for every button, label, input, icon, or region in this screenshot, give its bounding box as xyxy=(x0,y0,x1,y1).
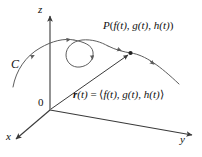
point-p-marker xyxy=(128,51,132,55)
vector-component-2: g(t) xyxy=(122,88,138,100)
axes-group xyxy=(16,16,192,139)
point-p-component-2: g(t) xyxy=(132,19,148,31)
curve-arrow-1 xyxy=(31,56,33,57)
space-curve xyxy=(13,39,179,87)
point-p-label: P(f(t), g(t), h(t)) xyxy=(103,20,173,31)
vector-equation-label: r(t) = ⟨f(t), g(t), h(t)⟩ xyxy=(73,89,164,100)
curve-segment-left xyxy=(13,39,74,87)
y-axis-label: y xyxy=(180,134,185,145)
point-p-close-paren: ) xyxy=(170,19,174,31)
curve-name-label: C xyxy=(11,58,19,70)
point-p-component-1: f(t) xyxy=(113,19,126,31)
curve-loop xyxy=(66,40,108,67)
origin-label: 0 xyxy=(38,97,44,108)
x-axis xyxy=(16,110,50,139)
point-p-name: P xyxy=(103,19,110,31)
vector-close-angle-bracket: ⟩ xyxy=(160,88,164,100)
y-axis xyxy=(50,110,192,135)
space-curve-figure: z y x C 0 P(f(t), g(t), h(t)) r(t) = ⟨f(… xyxy=(0,0,202,157)
vector-equals-sign: = xyxy=(88,88,100,100)
curve-segment-right xyxy=(108,46,179,84)
z-axis-label: z xyxy=(38,4,42,15)
vector-component-1: f(t) xyxy=(103,88,116,100)
vector-argument: (t) xyxy=(77,88,87,100)
x-axis-label: x xyxy=(6,131,11,142)
vector-component-3: h(t) xyxy=(144,88,160,100)
point-p-component-3: h(t) xyxy=(154,19,170,31)
